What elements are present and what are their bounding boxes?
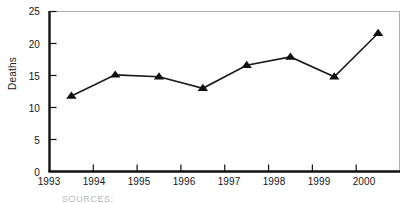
y-tick-label-25: 25 xyxy=(18,6,40,17)
x-tick-label-1995: 1995 xyxy=(119,176,159,187)
data-point-marker xyxy=(66,92,76,99)
y-tick-label-20: 20 xyxy=(18,39,40,50)
x-tick-label-1994: 1994 xyxy=(74,176,114,187)
y-axis-title: Deaths xyxy=(7,44,18,104)
x-tick-label-1997: 1997 xyxy=(209,176,249,187)
data-point-marker xyxy=(373,29,383,36)
data-point-marker xyxy=(285,52,295,59)
y-tick-label-10: 10 xyxy=(18,103,40,114)
chart-figure: Deaths 0 5 10 15 20 25 1993 1994 1995 19… xyxy=(0,0,413,203)
x-tick-label-1998: 1998 xyxy=(254,176,294,187)
source-note: SOURCES: xyxy=(62,194,114,203)
y-tick-label-5: 5 xyxy=(18,135,40,146)
series-markers xyxy=(66,29,383,99)
y-tick-label-15: 15 xyxy=(18,71,40,82)
x-tick-label-1999: 1999 xyxy=(299,176,339,187)
plot-area xyxy=(0,0,413,203)
series-line xyxy=(71,33,378,96)
x-tick-label-1996: 1996 xyxy=(164,176,204,187)
x-tick-label-1993: 1993 xyxy=(29,176,69,187)
data-point-marker xyxy=(110,70,120,77)
x-tick-label-2000: 2000 xyxy=(344,176,384,187)
